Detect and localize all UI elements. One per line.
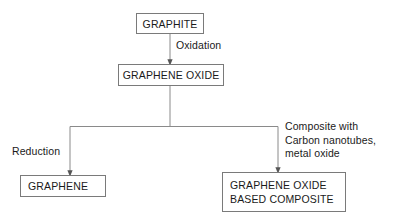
edge-label-composite: Composite with Carbon nanotubes, metal o… <box>285 120 376 161</box>
edge-label-oxidation: Oxidation <box>176 39 221 53</box>
node-graphite[interactable]: GRAPHITE <box>136 13 204 34</box>
node-graphene[interactable]: GRAPHENE <box>20 175 106 197</box>
node-go-composite-label-line2: BASED COMPOSITE <box>230 192 334 206</box>
edge-label-oxidation-text: Oxidation <box>176 39 221 53</box>
node-go-composite-label-line1: GRAPHENE OXIDE <box>230 178 327 192</box>
flowchart-canvas: GRAPHITE GRAPHENE OXIDE GRAPHENE GRAPHEN… <box>0 0 394 219</box>
node-graphene-oxide-based-composite[interactable]: GRAPHENE OXIDE BASED COMPOSITE <box>222 172 346 212</box>
edge-label-composite-line2: Carbon nanotubes, <box>285 134 376 148</box>
edge-label-reduction: Reduction <box>12 145 60 159</box>
node-graphene-oxide[interactable]: GRAPHENE OXIDE <box>118 64 224 86</box>
node-graphene-label: GRAPHENE <box>28 179 88 193</box>
edge-label-composite-line1: Composite with <box>285 120 376 134</box>
node-graphite-label: GRAPHITE <box>143 17 198 31</box>
edge-label-reduction-text: Reduction <box>12 145 60 159</box>
edge-label-composite-line3: metal oxide <box>285 147 376 161</box>
node-graphene-oxide-label: GRAPHENE OXIDE <box>123 68 220 82</box>
